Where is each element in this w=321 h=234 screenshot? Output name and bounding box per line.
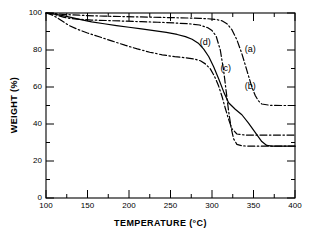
x-tick-label: 400 [283, 201, 307, 210]
curve-d [46, 13, 295, 146]
y-axis-title: WEIGHT (%) [9, 55, 19, 155]
x-tick-label: 350 [242, 201, 266, 210]
curve-label-a: (a) [245, 44, 256, 54]
x-tick-label: 250 [159, 201, 183, 210]
data-curves [46, 13, 295, 146]
tga-figure: 100150200250300350400 020406080100 (a)(b… [0, 0, 321, 234]
y-tick-label: 20 [14, 156, 42, 165]
curve-label-d: (d) [200, 37, 211, 47]
curve-c [46, 13, 295, 135]
plot-canvas [0, 0, 321, 234]
curve-label-b: (b) [245, 81, 256, 91]
x-tick-label: 150 [76, 201, 100, 210]
axis-ticks [46, 13, 295, 198]
plot-frame [46, 13, 295, 198]
x-axis-title: TEMPERATURE (°C) [0, 218, 321, 228]
curve-label-c: (c) [221, 63, 232, 73]
x-tick-label: 100 [34, 201, 58, 210]
x-tick-label: 300 [200, 201, 224, 210]
y-tick-label: 0 [14, 193, 42, 202]
curve-a [46, 13, 295, 106]
y-tick-label: 80 [14, 45, 42, 54]
x-tick-label: 200 [117, 201, 141, 210]
y-tick-label: 100 [14, 8, 42, 17]
